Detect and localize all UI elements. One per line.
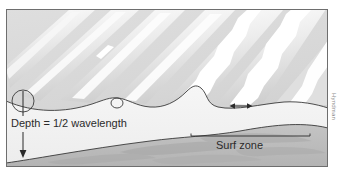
credit-label: Hyndman (328, 93, 340, 120)
surf-zone-label: Surf zone (216, 139, 263, 151)
depth-label: Depth = 1/2 wavelength (11, 117, 127, 129)
diagram-canvas (0, 0, 340, 175)
wave-refraction-surf-zone-figure: Depth = 1/2 wavelength Surf zone Hyndman (0, 0, 340, 175)
panel-content (6, 9, 328, 167)
